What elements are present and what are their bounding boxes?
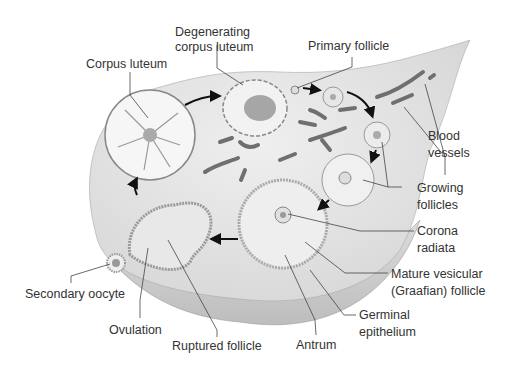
label-corona-radiata-line1: Corona — [417, 224, 458, 238]
label-growing-follicles-line1: Growing — [417, 181, 464, 195]
label-corona-radiata-line2: radiata — [417, 241, 455, 255]
growing-follicle-small — [364, 122, 390, 148]
mature-graafian-follicle — [239, 180, 327, 268]
label-corpus-luteum: Corpus luteum — [86, 57, 167, 71]
early-follicle — [323, 87, 343, 107]
label-secondary-oocyte: Secondary oocyte — [25, 287, 125, 301]
label-ovulation: Ovulation — [109, 323, 162, 337]
secondary-oocyte — [107, 254, 125, 272]
label-blood-vessels-line1: Blood — [428, 129, 460, 143]
label-growing-follicles-line2: follicles — [417, 198, 458, 212]
label-germinal-epithelium-line1: Germinal — [359, 308, 410, 322]
label-mature-follicle-line2: (Graafian) follicle — [391, 284, 486, 298]
growing-follicle-large — [322, 154, 374, 206]
corpus-luteum — [105, 90, 195, 180]
label-blood-vessels-line2: vessels — [428, 146, 470, 160]
ovary-diagram: Corpus luteum Degenerating corpus luteum… — [0, 0, 507, 374]
primary-follicle — [291, 86, 299, 94]
label-antrum: Antrum — [296, 338, 336, 352]
label-degenerating-corpus-luteum-line2: corpus luteum — [175, 40, 254, 54]
degenerating-corpus-luteum — [223, 80, 287, 136]
label-mature-follicle-line1: Mature vesicular — [391, 267, 483, 281]
label-primary-follicle: Primary follicle — [308, 39, 389, 53]
label-degenerating-corpus-luteum-line1: Degenerating — [175, 25, 250, 39]
diagram-canvas: Corpus luteum Degenerating corpus luteum… — [0, 0, 507, 374]
label-ruptured-follicle: Ruptured follicle — [172, 339, 262, 353]
label-germinal-epithelium-line2: epithelium — [359, 325, 416, 339]
